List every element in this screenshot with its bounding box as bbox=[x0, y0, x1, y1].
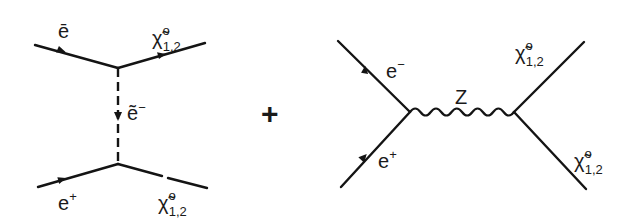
plus-sign: + bbox=[261, 97, 279, 130]
label-positron-left: e+ bbox=[58, 189, 77, 214]
label-neutralino-top: χ̃o1,2 bbox=[152, 23, 181, 54]
z-boson-wavy-line bbox=[410, 109, 514, 116]
label-z-boson: Z bbox=[455, 86, 467, 108]
outgoing-neutralino-bottom-line-segment bbox=[168, 178, 207, 188]
incoming-positron-line bbox=[341, 112, 410, 187]
label-selectron: ẽ− bbox=[127, 100, 146, 124]
diagram-t-channel: ē χ̃o1,2 ẽ− e+ χ̃o1,2 bbox=[35, 20, 207, 219]
label-antielectron: ē bbox=[58, 20, 69, 42]
incoming-electron-line bbox=[338, 41, 410, 112]
feynman-diagrams-figure: ē χ̃o1,2 ẽ− e+ χ̃o1,2 + e− bbox=[0, 0, 634, 222]
arrow-icon bbox=[114, 112, 122, 121]
incoming-positron-line bbox=[38, 164, 118, 187]
label-electron: e− bbox=[386, 57, 405, 82]
diagram-s-channel: e− e+ Z χ̃o1,2 χ̃o1,2 bbox=[338, 38, 603, 189]
label-neutralino-top: χ̃o1,2 bbox=[515, 38, 544, 69]
label-positron-right: e+ bbox=[378, 147, 397, 172]
label-neutralino-bottom: χ̃o1,2 bbox=[158, 188, 187, 219]
incoming-antielectron-line bbox=[35, 45, 118, 68]
label-neutralino-bottom: χ̃o1,2 bbox=[574, 146, 603, 177]
outgoing-neutralino-bottom-line bbox=[118, 164, 162, 176]
